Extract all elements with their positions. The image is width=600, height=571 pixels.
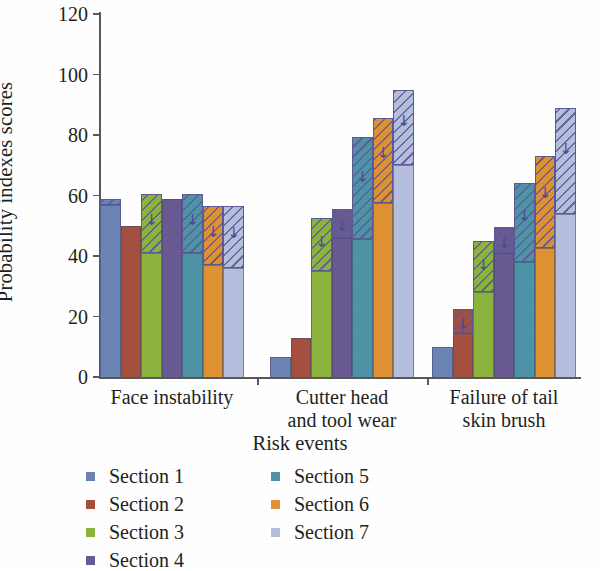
x-axis-category-label: Failure of tailskin brush: [414, 386, 594, 432]
bar-solid-segment: [311, 271, 332, 377]
legend-column-left: Section 1Section 2Section 3Section 4: [86, 462, 184, 571]
y-axis-tick-label: 120: [58, 1, 88, 27]
bar-hatched-segment: ↓: [141, 194, 162, 253]
legend-label: Section 4: [109, 549, 184, 571]
x-axis-category-label-line: and tool wear: [252, 409, 432, 432]
y-axis-tick-label: 100: [58, 62, 88, 88]
legend-item[interactable]: Section 4: [86, 546, 184, 571]
bar[interactable]: [432, 14, 453, 377]
bar-solid-segment: [494, 253, 515, 377]
legend-color-swatch: [271, 528, 280, 537]
bar-solid-segment: [203, 265, 224, 377]
legend-column-right: Section 5Section 6Section 7: [271, 462, 369, 546]
bar[interactable]: ↓: [223, 14, 244, 377]
bar[interactable]: [121, 14, 142, 377]
bar-hatched-segment: ↓: [473, 241, 494, 292]
y-axis-tick-mark: [93, 13, 100, 15]
bar[interactable]: ↓: [473, 14, 494, 377]
y-axis-tick-label: 20: [68, 304, 88, 330]
legend-item[interactable]: Section 2: [86, 490, 184, 518]
y-axis-tick-mark: [93, 195, 100, 197]
legend-color-swatch: [271, 500, 280, 509]
bar[interactable]: ↓: [453, 14, 474, 377]
bar-solid-segment: [373, 203, 394, 377]
legend-item[interactable]: Section 6: [271, 490, 369, 518]
legend-item[interactable]: Section 5: [271, 462, 369, 490]
bar[interactable]: ↓: [182, 14, 203, 377]
down-arrow-icon: ↓: [518, 209, 531, 224]
bar[interactable]: ↓: [332, 14, 353, 377]
bar-solid-segment: [291, 338, 312, 377]
bar[interactable]: [270, 14, 291, 377]
down-arrow-icon: ↓: [539, 186, 552, 201]
bar-hatched-segment: ↓: [555, 108, 576, 214]
y-axis-tick-mark: [93, 376, 100, 378]
bar-hatched-segment: ↓: [332, 209, 353, 238]
plot-area: 020406080100120↓↓↓↓↓↓↓↓↓↓↓↓↓↓↓: [100, 14, 580, 377]
bar[interactable]: ↓: [535, 14, 556, 377]
x-axis-category-label-line: skin brush: [414, 409, 594, 432]
bar-hatched-segment: [100, 199, 121, 205]
down-arrow-icon: ↓: [315, 235, 328, 250]
bar-hatched-segment: ↓: [393, 90, 414, 166]
down-arrow-icon: ↓: [207, 225, 220, 240]
bar[interactable]: ↓: [373, 14, 394, 377]
down-arrow-icon: ↓: [186, 213, 199, 228]
legend-label: Section 2: [109, 493, 184, 515]
bar-solid-segment: [121, 226, 142, 377]
legend-item[interactable]: Section 7: [271, 518, 369, 546]
x-axis-category-label-line: Face instability: [82, 386, 262, 409]
bar-hatched-segment: ↓: [182, 194, 203, 253]
legend-label: Section 7: [294, 521, 369, 543]
down-arrow-icon: ↓: [227, 226, 240, 241]
bar-group: ↓↓↓↓↓: [270, 14, 414, 377]
x-axis-category-label-line: Failure of tail: [414, 386, 594, 409]
y-axis-tick-label: 80: [68, 122, 88, 148]
down-arrow-icon: ↓: [377, 146, 390, 161]
legend-color-swatch: [86, 528, 95, 537]
x-axis-title: Risk events: [0, 432, 600, 455]
bar-hatched-segment: ↓: [514, 183, 535, 262]
bar-solid-segment: [393, 165, 414, 377]
legend-label: Section 6: [294, 493, 369, 515]
bar[interactable]: ↓: [352, 14, 373, 377]
bar[interactable]: ↓: [494, 14, 515, 377]
bar-group: ↓↓↓↓: [100, 14, 244, 377]
legend-color-swatch: [86, 556, 95, 565]
down-arrow-icon: ↓: [356, 170, 369, 185]
bar[interactable]: ↓: [203, 14, 224, 377]
bar-hatched-segment: ↓: [311, 218, 332, 271]
bar[interactable]: [291, 14, 312, 377]
y-axis-tick-mark: [93, 255, 100, 257]
down-arrow-icon: ↓: [559, 142, 572, 157]
bar[interactable]: ↓: [311, 14, 332, 377]
legend-item[interactable]: Section 3: [86, 518, 184, 546]
bar[interactable]: ↓: [555, 14, 576, 377]
legend-label: Section 5: [294, 465, 369, 487]
bar-hatched-segment: ↓: [373, 118, 394, 203]
bar-solid-segment: [182, 253, 203, 377]
down-arrow-icon: ↓: [397, 114, 410, 129]
bar[interactable]: [100, 14, 121, 377]
legend-label: Section 1: [109, 465, 184, 487]
bar[interactable]: ↓: [393, 14, 414, 377]
bar[interactable]: [162, 14, 183, 377]
x-axis-category-label: Cutter headand tool wear: [252, 386, 432, 432]
bar-solid-segment: [223, 268, 244, 377]
bar-solid-segment: [453, 333, 474, 377]
bar-hatched-segment: ↓: [453, 309, 474, 333]
down-arrow-icon: ↓: [336, 219, 349, 234]
bar[interactable]: ↓: [141, 14, 162, 377]
legend-item[interactable]: Section 1: [86, 462, 184, 490]
bar-solid-segment: [514, 262, 535, 377]
bar-solid-segment: [555, 214, 576, 377]
bar-hatched-segment: ↓: [535, 156, 556, 248]
down-arrow-icon: ↓: [457, 317, 470, 332]
bar[interactable]: ↓: [514, 14, 535, 377]
x-axis-tick-mark: [427, 377, 429, 385]
bar-solid-segment: [352, 239, 373, 377]
y-axis-tick-mark: [93, 74, 100, 76]
bar-solid-segment: [332, 238, 353, 377]
bar-solid-segment: [432, 347, 453, 377]
